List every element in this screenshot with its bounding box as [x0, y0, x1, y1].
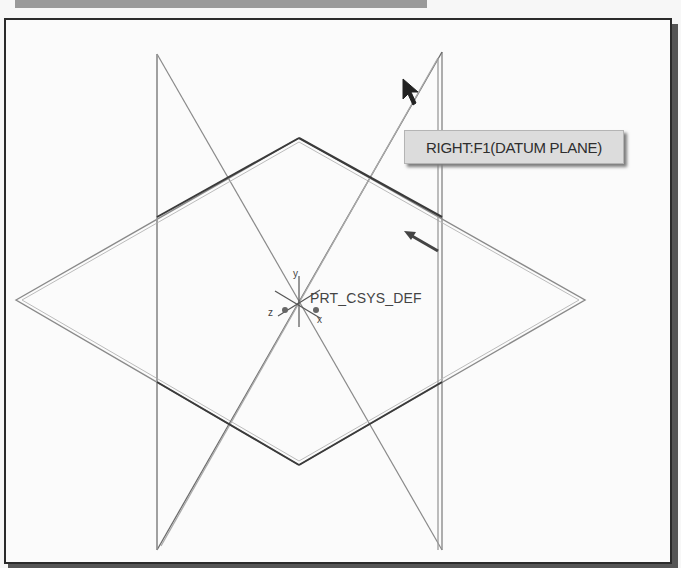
datum-plane-tooltip: RIGHT:F1(DATUM PLANE) — [404, 130, 624, 164]
title-bar — [15, 0, 427, 8]
csys-axis-x-label: x — [317, 314, 322, 325]
csys-label: PRT_CSYS_DEF — [310, 290, 422, 306]
normal-direction-arrow-icon — [404, 231, 438, 251]
mouse-cursor-icon — [403, 79, 418, 105]
csys-axis-y-label: y — [293, 268, 298, 279]
graphics-viewport[interactable]: y z x PRT_CSYS_DEF RIGHT:F1(DATUM PLANE) — [4, 18, 672, 564]
csys-axis-z-label: z — [268, 307, 273, 318]
tooltip-text: RIGHT:F1(DATUM PLANE) — [426, 139, 602, 156]
